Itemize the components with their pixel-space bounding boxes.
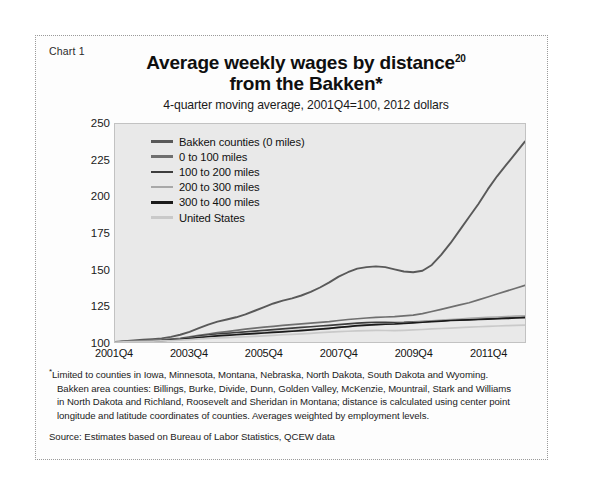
y-axis-tick-200: 200	[70, 190, 110, 202]
legend-item: 0 to 100 miles	[151, 149, 305, 164]
x-axis-tick-2003Q4: 2003Q4	[170, 347, 208, 359]
legend-item: 100 to 200 miles	[151, 164, 305, 179]
legend-swatch-icon	[151, 201, 173, 204]
legend-item: 200 to 300 miles	[151, 180, 305, 195]
footnote-asterisk-block: *Limited to counties in Iowa, Minnesota,…	[49, 366, 536, 423]
legend-label: 100 to 200 miles	[179, 166, 260, 178]
legend-item: Bakken counties (0 miles)	[151, 134, 305, 149]
x-axis-tick-2001Q4: 2001Q4	[95, 347, 133, 359]
series-line	[115, 325, 525, 342]
chart-subtitle: 4-quarter moving average, 2001Q4=100, 20…	[76, 98, 536, 112]
chart-footnotes: *Limited to counties in Iowa, Minnesota,…	[49, 366, 536, 443]
legend-label: 200 to 300 miles	[179, 181, 260, 193]
chart-title-footnote-ref: 20	[455, 53, 466, 64]
chart-legend: Bakken counties (0 miles)0 to 100 miles1…	[151, 134, 305, 225]
x-axis-tick-2005Q4: 2005Q4	[245, 347, 283, 359]
legend-swatch-icon	[151, 171, 173, 174]
legend-label: Bakken counties (0 miles)	[179, 136, 305, 148]
plot-area: Bakken counties (0 miles)0 to 100 miles1…	[114, 123, 526, 343]
chart-number-label: Chart 1	[49, 45, 85, 57]
footnote-line-2: Bakken area counties: Billings, Burke, D…	[49, 382, 536, 396]
x-axis-tick-2011Q4: 2011Q4	[470, 347, 507, 359]
chart-title-line-1: Average weekly wages by distance	[146, 52, 455, 73]
x-axis-tick-2007Q4: 2007Q4	[320, 347, 358, 359]
legend-label: 0 to 100 miles	[179, 151, 247, 163]
footnote-line-4: longitude and latitude coordinates of co…	[49, 409, 536, 423]
legend-label: United States	[179, 212, 245, 224]
chart-page: Chart 1 Average weekly wages by distance…	[0, 0, 589, 496]
legend-swatch-icon	[151, 155, 173, 158]
legend-label: 300 to 400 miles	[179, 196, 260, 208]
x-axis-tick-2009Q4: 2009Q4	[395, 347, 433, 359]
footnote-line-3: in North Dakota and Richland, Roosevelt …	[49, 395, 536, 409]
y-axis-tick-150: 150	[70, 264, 110, 276]
legend-swatch-icon	[151, 186, 173, 189]
chart-title: Average weekly wages by distance20 from …	[96, 52, 516, 95]
footnote-line-1: *Limited to counties in Iowa, Minnesota,…	[49, 366, 536, 382]
y-axis-tick-225: 225	[70, 154, 110, 166]
footnote-line-1-text: Limited to counties in Iowa, Minnesota, …	[52, 369, 488, 380]
legend-item: United States	[151, 210, 305, 225]
y-axis-tick-250: 250	[70, 117, 110, 129]
legend-swatch-icon	[151, 216, 173, 219]
plot-wrapper: Bakken counties (0 miles)0 to 100 miles1…	[114, 123, 526, 343]
footnote-source: Source: Estimates based on Bureau of Lab…	[49, 430, 536, 444]
y-axis-tick-125: 125	[70, 300, 110, 312]
y-axis-tick-175: 175	[70, 227, 110, 239]
legend-swatch-icon	[151, 140, 173, 143]
chart-title-line-2: from the Bakken*	[229, 73, 382, 94]
legend-item: 300 to 400 miles	[151, 195, 305, 210]
chart-figure-box: Chart 1 Average weekly wages by distance…	[35, 35, 548, 460]
